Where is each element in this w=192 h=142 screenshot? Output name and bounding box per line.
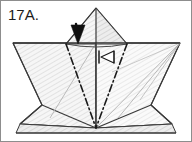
step-label: 17A. (8, 6, 39, 23)
origami-step-figure: 17A. (0, 0, 192, 142)
origami-diagram-svg: 17A. (0, 0, 192, 142)
